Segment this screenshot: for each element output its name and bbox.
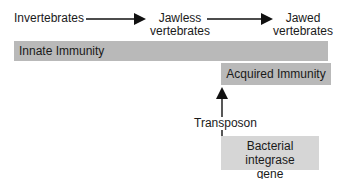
stage-invertebrates: Invertebrates — [14, 12, 84, 25]
transposon-label: Transposon — [193, 117, 258, 130]
stage-jawless-line2: vertebrates — [146, 25, 214, 38]
acquired-immunity-label: Acquired Immunity — [226, 67, 325, 81]
arrow-jawless-to-jawed — [207, 13, 273, 25]
bacterial-box-line1: Bacterial integrase — [221, 139, 319, 167]
arrow-invertebrates-to-jawless — [86, 13, 146, 25]
innate-immunity-bar: Innate Immunity — [14, 41, 328, 61]
stage-jawed-line2: vertebrates — [268, 25, 338, 38]
acquired-immunity-bar: Acquired Immunity — [221, 63, 331, 85]
stage-jawed-vertebrates: Jawed vertebrates — [268, 12, 338, 38]
stage-jawless-vertebrates: Jawless vertebrates — [146, 12, 214, 38]
innate-immunity-label: Innate Immunity — [19, 44, 104, 58]
arrow-transposon-to-acquired — [216, 87, 228, 140]
bacterial-box-line2: gene — [221, 167, 319, 179]
bacterial-integrase-gene-box: Bacterial integrase gene — [221, 136, 319, 170]
